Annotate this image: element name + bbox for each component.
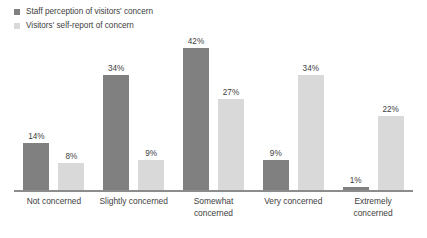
bar-groups: 14%8%34%9%42%27%9%34%1%22% xyxy=(14,36,413,190)
category-label-line: concerned xyxy=(176,208,252,220)
bar-group: 42%27% xyxy=(174,36,254,190)
bar-value-label: 9% xyxy=(270,148,282,159)
bar-group: 9%34% xyxy=(253,36,333,190)
category-label-line: Extremely xyxy=(335,196,411,208)
x-axis-category-labels: Not concernedSlightly concernedSomewhatc… xyxy=(14,196,413,219)
bar xyxy=(378,116,404,190)
bar xyxy=(183,48,209,190)
bar-slot: 27% xyxy=(218,36,244,190)
bar-group: 1%22% xyxy=(333,36,413,190)
bar xyxy=(138,160,164,190)
bar xyxy=(23,143,49,190)
bar-value-label: 8% xyxy=(65,151,77,162)
legend-item-staff-perception: Staff perception of visitors' concern xyxy=(14,6,153,18)
bar-slot: 34% xyxy=(103,36,129,190)
legend-label-staff-perception: Staff perception of visitors' concern xyxy=(26,6,153,18)
bar-slot: 34% xyxy=(298,36,324,190)
bar-group: 34%9% xyxy=(94,36,174,190)
bar xyxy=(58,163,84,190)
legend-item-visitors-self-report: Visitors' self-report of concern xyxy=(14,20,153,32)
category-label-line: Not concerned xyxy=(16,196,92,208)
category-label: Somewhatconcerned xyxy=(174,196,254,219)
bar-group: 14%8% xyxy=(14,36,94,190)
chart-legend: Staff perception of visitors' concern Vi… xyxy=(14,6,153,32)
bar-value-label: 34% xyxy=(303,63,319,74)
legend-label-visitors-self-report: Visitors' self-report of concern xyxy=(26,20,134,32)
category-label: Slightly concerned xyxy=(94,196,174,219)
bar-slot: 1% xyxy=(343,36,369,190)
bar-slot: 42% xyxy=(183,36,209,190)
category-label-line: concerned xyxy=(335,208,411,220)
category-label-line: Slightly concerned xyxy=(96,196,172,208)
bar xyxy=(103,75,129,190)
bar-value-label: 34% xyxy=(108,63,124,74)
bar-value-label: 1% xyxy=(350,175,362,186)
grouped-bar-chart: Staff perception of visitors' concern Vi… xyxy=(0,0,427,238)
category-label-line: Very concerned xyxy=(255,196,331,208)
x-axis-line xyxy=(14,190,413,192)
category-label: Not concerned xyxy=(14,196,94,219)
bar-slot: 9% xyxy=(263,36,289,190)
bar xyxy=(298,75,324,190)
bar-value-label: 42% xyxy=(188,36,204,47)
bar xyxy=(263,160,289,190)
bar-slot: 14% xyxy=(23,36,49,190)
bar-value-label: 9% xyxy=(145,148,157,159)
bar-slot: 22% xyxy=(378,36,404,190)
bar-value-label: 27% xyxy=(223,87,239,98)
bar-slot: 8% xyxy=(58,36,84,190)
bar xyxy=(218,99,244,190)
bar-value-label: 14% xyxy=(28,131,44,142)
plot-area: 14%8%34%9%42%27%9%34%1%22% xyxy=(0,36,427,190)
category-label: Extremelyconcerned xyxy=(333,196,413,219)
bar-value-label: 22% xyxy=(382,104,398,115)
category-label: Very concerned xyxy=(253,196,333,219)
category-label-line: Somewhat xyxy=(176,196,252,208)
legend-swatch-icon-staff-perception xyxy=(14,9,20,15)
bar-slot: 9% xyxy=(138,36,164,190)
legend-swatch-icon-visitors-self-report xyxy=(14,23,20,29)
